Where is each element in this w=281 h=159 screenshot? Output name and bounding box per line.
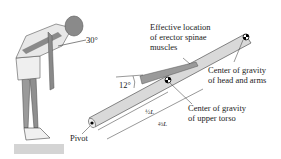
angle-12-label: 12° (119, 80, 131, 90)
pivot-label: Pivot (70, 133, 89, 143)
bent-person-figure (16, 16, 83, 140)
muscle-leader (183, 58, 190, 64)
cog-upper-torso-marker (165, 77, 171, 83)
cog-head-label-line1: Center of gravity (208, 65, 267, 75)
cog-head-label-line2: of head and arms (208, 75, 266, 85)
half-L-label: ½L (145, 108, 154, 116)
muscle-label-line1: Effective location (150, 22, 211, 32)
two-thirds-L-label: ⅔L (158, 120, 167, 128)
cog-head-arms-marker (243, 34, 249, 40)
cog-torso-label-line2: of upper torso (188, 113, 236, 123)
angle-12-reference-line (116, 75, 143, 77)
angle-30-label: 30° (86, 35, 98, 45)
angle-12-arc (133, 76, 135, 88)
muscle-label-line2: of erector spinae (150, 32, 207, 42)
cog-torso-leader (170, 83, 192, 104)
cog-torso-label-line1: Center of gravity (188, 103, 247, 113)
muscle-label-line3: muscles (150, 42, 177, 52)
pivot-point (90, 121, 93, 124)
ground (14, 144, 64, 154)
diagram-canvas: 30° 12° ½L ⅔L Effective location of erec… (0, 0, 281, 159)
